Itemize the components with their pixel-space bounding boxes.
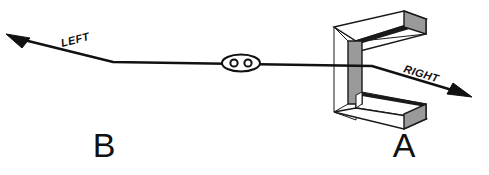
left-eye-icon: [230, 59, 237, 66]
left-direction-label: LEFT: [59, 30, 91, 49]
object-a-label: A: [393, 126, 416, 164]
eyes-symbol: [222, 55, 260, 72]
right-arrowhead: [447, 83, 472, 97]
right-eye-icon: [244, 59, 251, 66]
diagram-svg: LEFT RIGHT B A: [0, 0, 489, 175]
position-b-label: B: [93, 126, 116, 164]
figure-canvas: LEFT RIGHT B A: [0, 0, 489, 175]
left-arrowhead: [6, 34, 30, 48]
head-outline-icon: [222, 55, 260, 72]
